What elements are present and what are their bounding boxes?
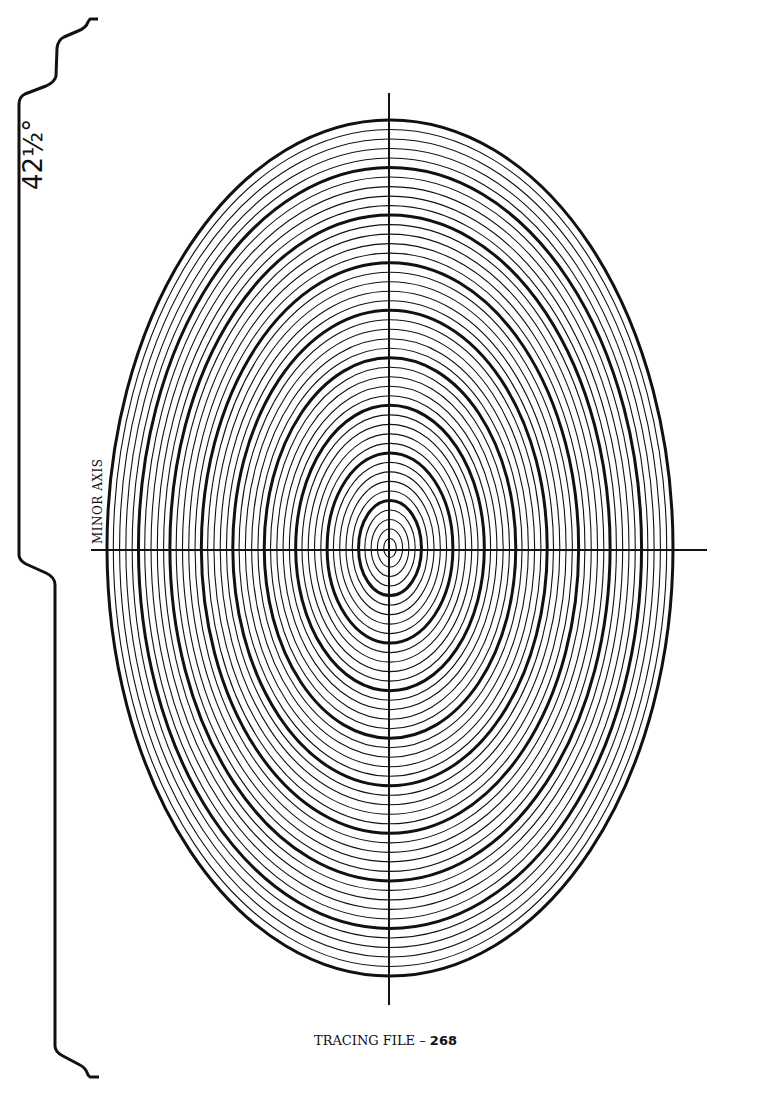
minor-axis-label: MINOR AXIS [91, 459, 105, 544]
page-footer: TRACING FILE – 268 [0, 1033, 771, 1048]
footer-number: 268 [430, 1033, 457, 1048]
ellipse-diagram [0, 0, 771, 1101]
footer-prefix: TRACING FILE – [314, 1033, 430, 1048]
angle-label: 42½° [18, 119, 48, 190]
